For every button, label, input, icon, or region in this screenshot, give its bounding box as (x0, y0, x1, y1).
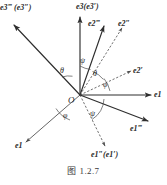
axis-line-e3-triple-prime (14, 25, 80, 95)
axis-line-e2-double-prime (80, 28, 122, 95)
figure-container: O e3‴ (e3″) e3(e3′) e2‴ e2″ e2′ e1 e1‴ e… (0, 0, 167, 185)
figure-caption: 图 1.2.7 (0, 164, 167, 177)
axis-label-e1: e1 (154, 90, 162, 99)
axis-label-e1-double-prime: e1″(e1′) (91, 150, 118, 159)
axis-label-e3: e3(e3′) (76, 2, 99, 11)
axis-label-e3-triple-prime: e3‴ (e3″) (0, 3, 31, 12)
angle-label-theta-upper-right: θ (93, 69, 97, 78)
angle-label-phi-right: φ (103, 80, 107, 89)
angle-label-theta-upper-left: θ (60, 66, 64, 75)
origin-label: O (68, 95, 75, 105)
axis-label-e2-prime: e2′ (133, 66, 143, 75)
angle-arc-theta-upper-left (62, 76, 73, 77)
axis-label-e1-base: e1 (15, 141, 23, 150)
axis-label-e2-triple-prime: e2‴ (88, 19, 100, 28)
angle-label-psi-lower-right: ψ (90, 109, 95, 118)
angle-label-psi-upper: ψ (80, 56, 85, 65)
axis-label-e2-double-prime: e2″ (118, 19, 130, 28)
angle-label-phi-lower-left: φ (63, 111, 67, 120)
axis-label-e1-triple-prime: e1‴ (130, 124, 142, 133)
